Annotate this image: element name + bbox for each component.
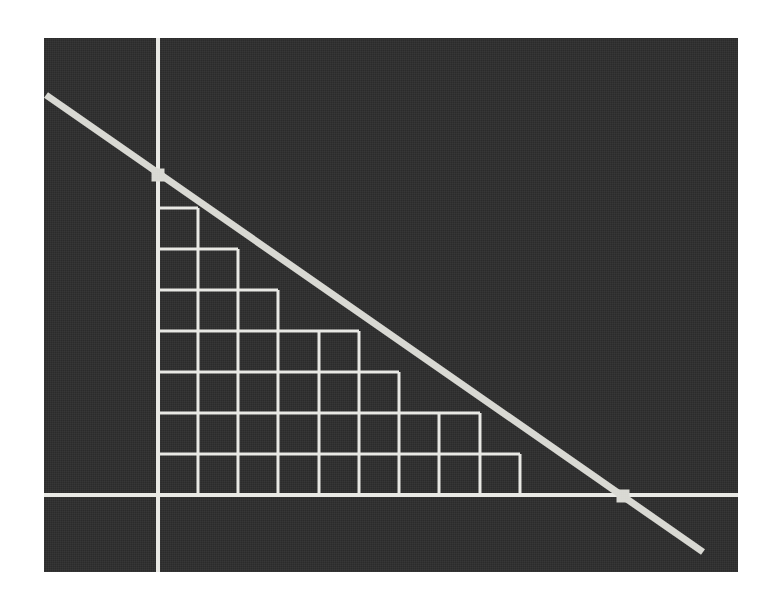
x-axis-intercept-marker	[617, 490, 630, 503]
figure-root	[0, 0, 778, 604]
boundary-line	[46, 95, 703, 552]
plot-canvas	[44, 38, 738, 572]
lattice-grid-block	[158, 208, 600, 495]
axes-group	[44, 38, 738, 572]
plot-panel	[44, 38, 738, 572]
y-axis-intercept-marker	[152, 169, 165, 182]
boundary-line-group	[46, 95, 703, 552]
